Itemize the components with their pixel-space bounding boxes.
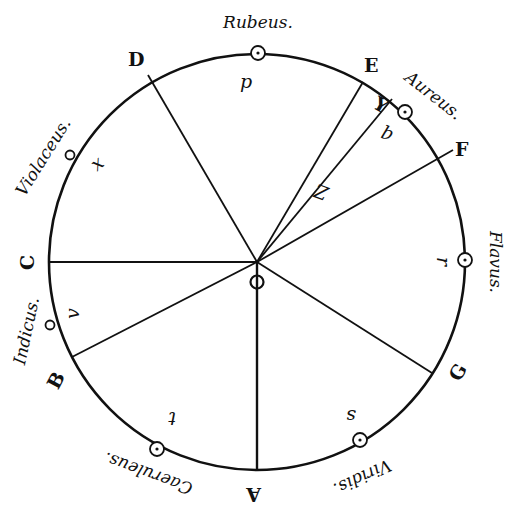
line-oy [257,99,392,262]
color-label-flavus: Flavus. [486,230,506,293]
point-label-e: E [364,54,378,76]
point-label-c: C [16,255,38,270]
newton-color-circle: ABCDEFGYRubeus.Aureus.Flavus.Viridis.Cae… [0,0,522,514]
radius-line-g [257,262,432,373]
radius-line-e [257,82,363,262]
color-label-indicus: Indicus. [9,295,43,367]
radius-line-f [257,150,453,262]
gravity-dot-s [358,438,361,441]
color-label-rubeus: Rubeus. [222,12,293,32]
gravity-letter-t: t [168,408,176,430]
gravity-letter-s: s [346,406,356,428]
radius-line-b [72,262,257,357]
point-label-g: G [444,360,471,385]
gravity-letter-q: q [377,124,396,149]
point-label-a: A [246,484,262,506]
gravity-dot-r [463,258,466,261]
point-label-f: F [455,138,469,160]
gravity-letter-r: r [433,257,455,268]
gravity-dot-t [155,447,158,450]
point-label-b: B [42,368,69,393]
gravity-letter-x: x [85,151,108,175]
point-label-y: Y [369,91,393,118]
radius-line-d [148,75,257,262]
gravity-dot-p [256,51,259,54]
gravity-circle-v [46,321,55,330]
color-label-viridis: Viridis. [330,455,394,499]
gravity-letter-v: v [61,308,83,319]
gravity-circle-x [66,151,75,160]
gravity-dot-q [403,110,406,113]
point-label-d: D [128,48,144,70]
gravity-letter-p: p [240,70,252,92]
